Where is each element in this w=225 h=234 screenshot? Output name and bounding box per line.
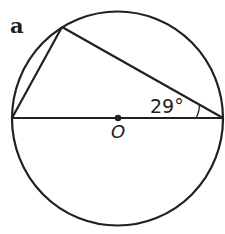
part-label: a	[10, 13, 24, 38]
angle-arc	[196, 105, 200, 119]
chord-left	[12, 27, 62, 118]
angle-label: 29°	[150, 95, 184, 117]
chord-right	[62, 27, 223, 118]
circle-diagram	[0, 0, 225, 234]
center-label: O	[111, 121, 125, 142]
